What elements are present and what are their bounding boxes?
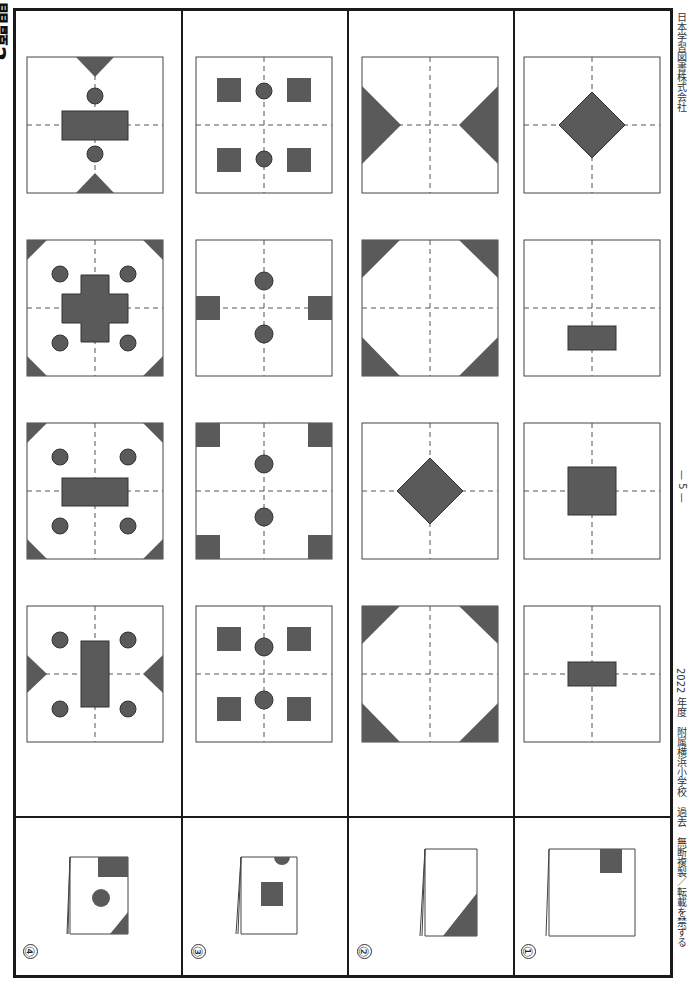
pattern-cross-circles-corners-icon — [26, 239, 166, 379]
folded-paper-q1-icon — [545, 848, 645, 938]
question-panel-3: ③ — [183, 818, 347, 975]
pattern-corner-squares-circles-icon — [195, 422, 335, 562]
answer-option-q3-1[interactable] — [195, 605, 335, 745]
answer-area-2 — [349, 11, 513, 818]
answer-option-q2-4[interactable] — [361, 56, 501, 196]
pattern-rect-circles-corners-icon — [26, 422, 166, 562]
answer-option-q2-1[interactable] — [361, 605, 501, 745]
folded-paper-2 — [419, 848, 479, 938]
answer-option-q2-2[interactable] — [361, 422, 501, 562]
answer-option-q1-3[interactable] — [523, 239, 663, 379]
page-title: 問題2 — [0, 2, 14, 72]
copyright-footer: 2022 年度 附属横浜小学校 過去 無断複製／転載を禁ずる — [672, 668, 688, 947]
folded-paper-q4-icon — [66, 856, 136, 936]
question-panel-1: ① — [515, 818, 670, 975]
question-number-1: ① — [521, 944, 536, 959]
question-column-1: ① — [513, 11, 670, 975]
answer-option-q3-2[interactable] — [195, 422, 335, 562]
pattern-center-diamond-icon — [523, 56, 663, 196]
answer-area-1 — [515, 11, 670, 818]
question-column-2: ② — [347, 11, 513, 975]
answer-option-q1-1[interactable] — [523, 605, 663, 745]
pattern-mixed-corner-triangles-icon — [361, 239, 501, 379]
pattern-four-corner-triangles-icon — [361, 605, 501, 745]
answer-option-q3-3[interactable] — [195, 239, 335, 379]
question-number-3: ③ — [191, 944, 206, 959]
pattern-diamond-icon — [361, 422, 501, 562]
pattern-squares-circles-icon — [195, 605, 335, 745]
pattern-offset-rectangle-icon — [523, 239, 663, 379]
answer-option-q1-2[interactable] — [523, 422, 663, 562]
page-title-text: 問題2 — [0, 2, 14, 61]
answer-option-q4-3[interactable] — [26, 239, 166, 379]
question-panel-2: ② — [349, 818, 513, 975]
folded-paper-q3-icon — [235, 856, 305, 936]
question-column-4: ④ — [16, 11, 181, 975]
folded-paper-3 — [235, 856, 305, 936]
answer-option-q3-4[interactable] — [195, 56, 335, 196]
pattern-top-bottom-triangles-icon — [361, 56, 501, 196]
pattern-edge-squares-circles-icon — [195, 239, 335, 379]
answer-area-4 — [16, 11, 181, 818]
question-number-4: ④ — [23, 944, 38, 959]
pattern-rect-circles-vert-triangles-icon — [26, 605, 166, 745]
question-column-3: ③ — [181, 11, 347, 975]
pattern-rect-circles-edge-triangles-icon — [26, 56, 166, 196]
question-number-2: ② — [357, 944, 372, 959]
pattern-center-rectangle-icon — [523, 605, 663, 745]
page-number: — 5 — — [672, 470, 688, 503]
answer-option-q1-4[interactable] — [523, 56, 663, 196]
folded-paper-4 — [66, 856, 136, 936]
answer-option-q2-3[interactable] — [361, 239, 501, 379]
answer-option-q4-4[interactable] — [26, 56, 166, 196]
question-panel-4: ④ — [16, 818, 181, 975]
answer-area-3 — [183, 11, 347, 818]
folded-paper-1 — [545, 848, 645, 938]
worksheet-frame: ④ — [13, 8, 673, 978]
answer-option-q4-2[interactable] — [26, 422, 166, 562]
pattern-center-square-icon — [523, 422, 663, 562]
folded-paper-q2-icon — [419, 848, 479, 938]
answer-option-q4-1[interactable] — [26, 605, 166, 745]
pattern-squares-circles-axis-icon — [195, 56, 335, 196]
publisher-label: 日本学習図書株式会社 — [672, 12, 688, 112]
